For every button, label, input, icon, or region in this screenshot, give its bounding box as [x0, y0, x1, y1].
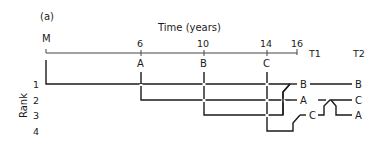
transition-a-drop: [331, 100, 352, 115]
t2-rank1-label: B: [355, 79, 362, 90]
origin-label: M: [42, 33, 51, 44]
tick-label-16: 16: [291, 38, 303, 49]
event-label-a: A: [137, 58, 144, 69]
rank-2: 2: [33, 95, 39, 106]
rank-3: 3: [33, 110, 39, 121]
t1-rank3-label: C: [309, 110, 316, 121]
t1-rank2-label: A: [300, 95, 307, 106]
tick-label-6: 6: [137, 38, 143, 49]
panel-label: (a): [40, 11, 54, 22]
rank-4: 4: [33, 126, 39, 137]
t1-rank1-label: B: [300, 79, 307, 90]
column-label-t2: T2: [352, 48, 365, 59]
axis-title: Time (years): [157, 22, 221, 33]
event-label-c: C: [263, 58, 270, 69]
tick-label-10: 10: [197, 38, 209, 49]
tick-label-14: 14: [260, 38, 272, 49]
lineage-b: [204, 72, 290, 115]
event-label-b: B: [200, 58, 207, 69]
t2-rank2-label: C: [355, 95, 362, 106]
column-label-t1: T1: [308, 48, 321, 59]
rank-1: 1: [33, 79, 39, 90]
transition-c: [318, 100, 352, 115]
lineage-m: [46, 60, 290, 84]
phylogeny-rank-diagram: (a) Time (years) M 6 10 14 16 A B C T1 T…: [0, 0, 383, 146]
t2-rank3-label: A: [355, 110, 362, 121]
rank-axis-title: Rank: [18, 93, 29, 118]
